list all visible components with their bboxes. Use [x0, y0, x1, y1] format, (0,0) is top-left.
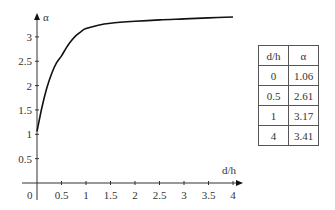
cell: 1.06	[289, 66, 319, 86]
axes	[22, 13, 243, 200]
cell: 3.41	[289, 126, 319, 146]
x-axis-label: d/h	[222, 164, 237, 176]
x-tick-label: 3	[181, 189, 187, 201]
origin-label: 0	[27, 189, 33, 201]
x-tick-label: 2.5	[153, 189, 167, 201]
table-header-row: d/h α	[259, 46, 319, 66]
y-tick-label: 1	[27, 128, 33, 140]
y-axis-arrow-icon	[34, 13, 40, 20]
header-dh: d/h	[259, 46, 289, 66]
y-tick-label: 1.5	[18, 104, 32, 116]
x-tick-label: 1.5	[104, 189, 118, 201]
cell: 0	[259, 66, 289, 86]
x-tick-label: 0.5	[55, 189, 69, 201]
table-row: 13.17	[259, 106, 319, 126]
x-tick-label: 3.5	[202, 189, 216, 201]
table-row: 43.41	[259, 126, 319, 146]
table-row: 0.52.61	[259, 86, 319, 106]
cell: 3.17	[289, 106, 319, 126]
y-tick-label: 0.5	[18, 153, 32, 165]
y-tick-label: 2.5	[18, 55, 32, 67]
alpha-curve	[37, 17, 233, 131]
cell: 4	[259, 126, 289, 146]
y-axis-label: α	[43, 11, 49, 23]
x-tick-label: 1	[83, 189, 89, 201]
values-table: d/h α 01.06 0.52.61 13.17 43.41	[258, 45, 319, 146]
table-row: 01.06	[259, 66, 319, 86]
x-axis-arrow-icon	[236, 180, 243, 186]
cell: 1	[259, 106, 289, 126]
x-tick-label: 4	[230, 189, 236, 201]
cell: 2.61	[289, 86, 319, 106]
header-alpha: α	[289, 46, 319, 66]
y-tick-label: 2	[27, 80, 33, 92]
cell: 0.5	[259, 86, 289, 106]
ticks: 0.511.522.533.540.511.522.53	[18, 31, 236, 201]
x-tick-label: 2	[132, 189, 138, 201]
y-tick-label: 3	[27, 31, 33, 43]
